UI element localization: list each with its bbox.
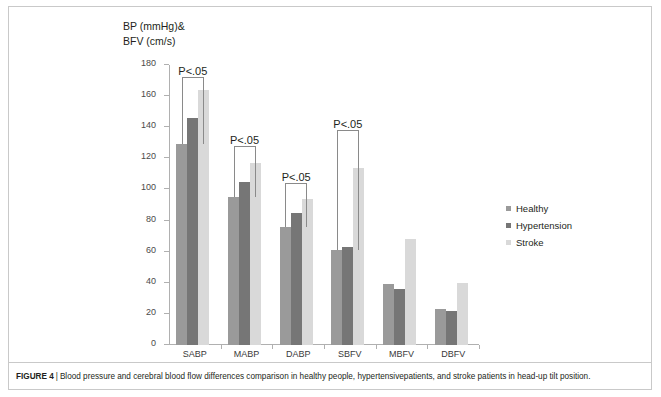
y-axis-tick-label: 60 [146,245,156,255]
y-axis-title-line2: BFV (cm/s) [123,34,185,49]
x-axis-tick [376,345,377,349]
significance-bracket: P<.05 [234,146,256,197]
x-axis-tick [427,345,428,349]
x-axis-category-label: SABP [183,349,207,359]
y-axis-tick-label: 40 [146,276,156,286]
x-axis-category-label: DABP [286,349,311,359]
significance-label: P<.05 [282,171,311,183]
y-axis-title-line1: BP (mmHg)& [123,19,185,34]
significance-bracket: P<.05 [285,183,307,227]
legend-item: Stroke [506,234,572,251]
significance-bracket: P<.05 [337,130,359,250]
bar-group: DBFV [427,65,479,345]
bar-dbfv-hypertension [446,311,457,345]
bar-mbfv-hypertension [394,289,405,345]
figure-caption-text: Blood pressure and cerebral blood flow d… [60,372,591,381]
caption-divider [9,362,651,363]
x-axis-category-label: DBFV [441,349,465,359]
figure-caption-label: FIGURE 4 [16,372,54,381]
y-axis-title: BP (mmHg)& BFV (cm/s) [123,19,185,49]
y-axis-tick-label: 120 [141,151,156,161]
y-axis-tick-label: 0 [151,338,156,348]
bar-sabp-hypertension [187,118,198,345]
bar-dabp-healthy [280,227,291,345]
significance-bracket: P<.05 [182,77,204,144]
bar-dbfv-healthy [435,309,446,345]
bar-group: MBFV [376,65,428,345]
x-axis-tick [324,345,325,349]
bar-mbfv-stroke [405,239,416,345]
legend-item-label: Healthy [516,203,548,214]
y-axis-tick-label: 180 [141,58,156,68]
figure-caption-separator: | [56,372,58,381]
y-axis-tick-label: 140 [141,120,156,130]
x-axis-tick [221,345,222,349]
significance-label: P<.05 [178,65,207,77]
x-axis-category-label: SBFV [338,349,362,359]
bar-dbfv-stroke [457,283,468,345]
bar-sbfv-healthy [331,250,342,345]
x-axis-tick [479,345,480,349]
plot-area: 020406080100120140160180 SABPMABPDABPSBF… [169,65,479,345]
legend-swatch-icon [506,206,511,211]
bar-mabp-healthy [228,197,239,345]
y-axis-tick-label: 100 [141,182,156,192]
bar-dabp-hypertension [291,213,302,345]
significance-label: P<.05 [333,118,362,130]
legend-swatch-icon [506,223,511,228]
legend-item-label: Stroke [516,237,543,248]
y-axis-tick-label: 20 [146,307,156,317]
y-axis-tick-label: 160 [141,89,156,99]
bar-group: MABP [221,65,273,345]
significance-label: P<.05 [230,134,259,146]
chart-legend: HealthyHypertensionStroke [506,200,572,251]
x-axis-category-label: MBFV [389,349,414,359]
bar-sabp-healthy [176,144,187,345]
bar-mbfv-healthy [383,284,394,345]
chart-panel: BP (mmHg)& BFV (cm/s) 020406080100120140… [9,7,651,359]
bar-mabp-hypertension [239,182,250,345]
x-axis-tick [272,345,273,349]
legend-swatch-icon [506,240,511,245]
legend-item: Healthy [506,200,572,217]
legend-item-label: Hypertension [516,220,572,231]
figure-caption: FIGURE 4|Blood pressure and cerebral blo… [16,371,646,382]
legend-item: Hypertension [506,217,572,234]
figure-root: BP (mmHg)& BFV (cm/s) 020406080100120140… [0,0,661,397]
x-axis-category-label: MABP [234,349,260,359]
bar-sbfv-hypertension [342,247,353,345]
y-axis-tick-label: 80 [146,214,156,224]
